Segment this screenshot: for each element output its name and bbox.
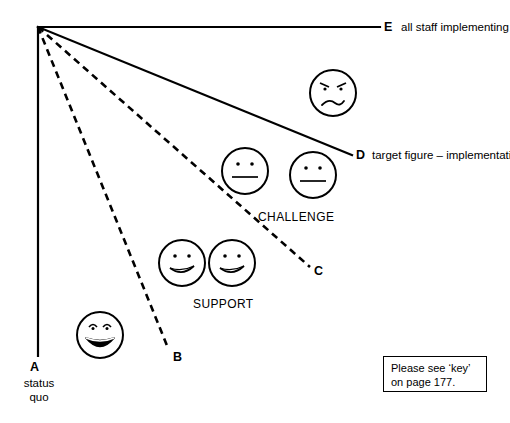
node-caption-e: all staff implementing new practice (401, 20, 510, 35)
node-letter-b: B (173, 350, 182, 364)
node-caption-a: status quo (0, 376, 78, 404)
zone-label-support: SUPPORT (193, 297, 254, 311)
face-neutral-1-icon (222, 148, 268, 194)
face-frowning-icon (310, 70, 356, 116)
node-caption-d: target figure – implementation is suffic… (372, 148, 510, 163)
face-smiling-1-icon (159, 240, 205, 286)
face-smiling-2-icon (209, 240, 255, 286)
node-letter-d: D (356, 148, 365, 162)
line-d (38, 27, 352, 155)
line-b (38, 27, 168, 348)
node-letter-e: E (384, 20, 392, 34)
node-letter-c: C (314, 264, 323, 278)
node-letter-a: A (30, 360, 39, 374)
line-c (38, 27, 310, 267)
diagram-root: A status quo B C D target figure – imple… (0, 0, 510, 423)
face-grinning-icon (77, 312, 123, 358)
face-neutral-2-icon (290, 152, 336, 198)
zone-label-challenge: CHALLENGE (258, 210, 334, 224)
key-note-text: Please see ‘key’ on page 177. (391, 362, 487, 389)
